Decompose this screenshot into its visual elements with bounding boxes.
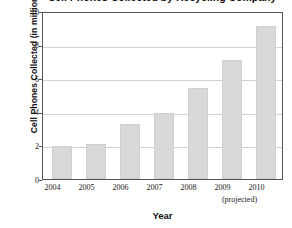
x-tick-label-2009: 2009 xyxy=(205,184,240,192)
y-tick-mark-10 xyxy=(39,12,42,13)
x-tick-label-2006: 2006 xyxy=(103,184,138,192)
y-tick-mark-0 xyxy=(39,180,42,181)
y-tick-label-2: 2 xyxy=(17,143,39,151)
bar-2010 xyxy=(256,26,276,179)
bar-2004 xyxy=(52,146,72,179)
chart-title: Cell Phones Collected by Recycling Compa… xyxy=(40,0,284,3)
x-tick-label-2004: 2004 xyxy=(35,184,70,192)
bar-2009 xyxy=(222,60,242,179)
bar-2005 xyxy=(86,144,106,179)
bar-chart: Cell Phones Collected by Recycling Compa… xyxy=(0,0,292,228)
projected-annotation: (projected) xyxy=(205,196,274,204)
y-tick-label-6: 6 xyxy=(17,76,39,84)
x-tick-label-2008: 2008 xyxy=(171,184,206,192)
y-tick-label-8: 8 xyxy=(17,42,39,50)
bars-layer xyxy=(43,13,282,179)
bar-2007 xyxy=(154,113,174,179)
x-tick-label-2007: 2007 xyxy=(137,184,172,192)
y-tick-mark-2 xyxy=(39,146,42,147)
bar-2006 xyxy=(120,124,140,179)
x-tick-label-2005: 2005 xyxy=(69,184,104,192)
y-tick-label-10: 10 xyxy=(17,9,39,17)
x-axis-label: Year xyxy=(42,210,283,221)
y-tick-mark-8 xyxy=(39,46,42,47)
y-tick-mark-4 xyxy=(39,113,42,114)
x-tick-label-2010: 2010 xyxy=(239,184,274,192)
y-tick-label-4: 4 xyxy=(17,109,39,117)
y-tick-mark-6 xyxy=(39,79,42,80)
bar-2008 xyxy=(188,88,208,179)
